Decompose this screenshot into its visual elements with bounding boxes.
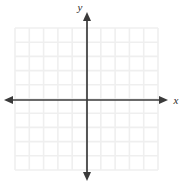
x-axis-label: x — [173, 94, 179, 106]
coordinate-plane-graphic: y x — [0, 0, 184, 186]
y-axis-label: y — [77, 1, 83, 13]
coordinate-plane-figure: y x — [0, 0, 184, 186]
